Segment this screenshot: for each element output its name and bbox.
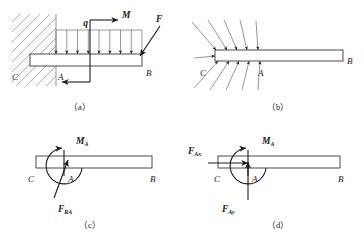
label-fra: FRA (57, 204, 72, 215)
label-b: B (146, 68, 152, 78)
label-a: A (57, 72, 64, 82)
label-m: M (121, 10, 131, 20)
distributed-load-q (56, 30, 142, 54)
caption-a: （a） (69, 102, 91, 112)
label-ma: MA (261, 136, 274, 147)
label-c: C (28, 174, 35, 184)
label-b: B (150, 174, 156, 184)
beam-cb (36, 156, 152, 168)
label-a: A (251, 174, 258, 184)
label-ma: MA (75, 136, 88, 147)
label-c: C (12, 72, 19, 82)
label-c: C (214, 174, 221, 184)
figure-root: q M F C A B （a） (0, 0, 364, 240)
reaction-arrows-top (192, 20, 258, 50)
beam-cb (218, 156, 340, 168)
caption-b: （b） (267, 102, 289, 112)
caption-d: （d） (267, 220, 289, 230)
panel-b: C A B （b） (182, 0, 364, 120)
force-f-arrow (140, 26, 160, 56)
beam-cb (215, 50, 343, 61)
label-fay: FAy (221, 204, 235, 215)
label-b: B (347, 56, 353, 66)
label-f: F (155, 14, 163, 24)
panel-c: MA FRA C A B （c） (0, 120, 182, 240)
label-fax: FAx (187, 146, 201, 157)
caption-c: （c） (79, 220, 101, 230)
reaction-arrow-end (194, 56, 215, 58)
panel-a: q M F C A B （a） (0, 0, 182, 120)
panel-d: MA FAx FAy C A B （d） (182, 120, 364, 240)
label-c: C (200, 68, 207, 78)
beam-cb (30, 54, 142, 66)
wall-support (0, 0, 84, 100)
label-a: A (257, 68, 264, 78)
label-b: B (338, 174, 344, 184)
label-q: q (83, 18, 88, 28)
label-a: A (67, 174, 74, 184)
